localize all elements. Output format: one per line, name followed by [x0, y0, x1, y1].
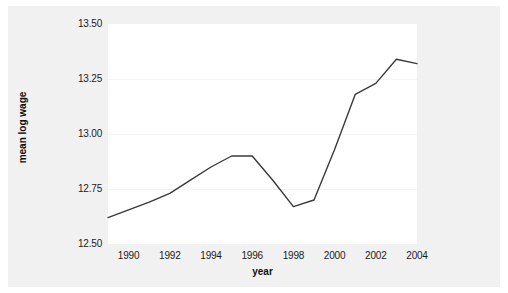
- x-axis-tick-label: 2004: [395, 250, 439, 262]
- x-axis-tick-label: 2000: [313, 250, 357, 262]
- y-axis-label: mean log wage: [17, 68, 28, 188]
- y-axis-tick-label: 12.75: [42, 184, 102, 194]
- x-axis-tick-labels: 19901992199419961998200020022004: [108, 250, 417, 264]
- y-axis-tick-label: 12.50: [42, 239, 102, 249]
- x-axis-label: year: [108, 266, 417, 277]
- y-axis-tick-labels: 13.5013.2513.0012.7512.50: [38, 24, 102, 244]
- x-axis-tick-label: 1998: [271, 250, 315, 262]
- chart-figure: mean log wage 13.5013.2513.0012.7512.50 …: [0, 0, 508, 293]
- y-axis-tick-label: 13.00: [42, 129, 102, 139]
- y-axis-tick-label: 13.50: [42, 19, 102, 29]
- y-axis-tick-label: 13.25: [42, 74, 102, 84]
- x-axis-tick-label: 1990: [107, 250, 151, 262]
- x-axis-tick-label: 2002: [354, 250, 398, 262]
- x-axis-tick-label: 1994: [189, 250, 233, 262]
- x-axis-tick-label: 1996: [230, 250, 274, 262]
- x-axis-tick-label: 1992: [148, 250, 192, 262]
- data-series-line: [108, 24, 417, 244]
- plot-area: [108, 24, 417, 244]
